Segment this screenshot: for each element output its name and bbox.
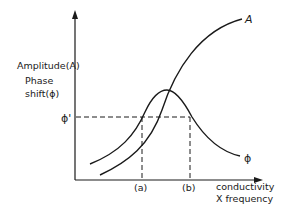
phase-curve-label: ϕ	[244, 152, 251, 165]
y-axis-arrow-icon	[72, 10, 78, 19]
amplitude-curve	[100, 19, 242, 175]
y-axis-label-amplitude: Amplitude(A)	[17, 60, 80, 71]
phi-prime-label: ϕ'	[61, 112, 71, 125]
x-axis-label-conductivity: conductivity	[216, 181, 275, 192]
x-axis-label-frequency: X frequency	[216, 193, 274, 204]
amplitude-phase-diagram: Amplitude(A) Phase shift(ϕ) ϕ' (a) (b) c…	[0, 0, 288, 211]
amplitude-curve-label: A	[244, 13, 253, 26]
y-axis-label-phase: Phase	[25, 75, 54, 86]
marker-b-label: (b)	[182, 182, 195, 193]
marker-a-label: (a)	[134, 182, 147, 193]
y-axis-label-shift: shift(ϕ)	[25, 88, 59, 99]
